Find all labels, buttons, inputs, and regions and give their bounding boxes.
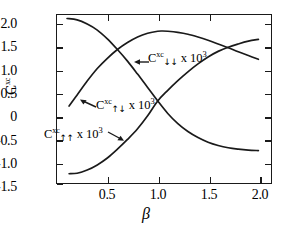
annot-sup: xc	[52, 126, 59, 135]
y-tick-label: -0.5	[0, 133, 17, 149]
annotation-label-up-down: Cxc↑↓ x 103	[96, 97, 155, 114]
annotation-label-down-down: Cxc↓↓ x 103	[148, 50, 207, 67]
x-tick-label: 1.0	[138, 187, 178, 203]
annot-sub: ↓↓	[164, 57, 178, 67]
annot-sup: xc	[104, 97, 111, 106]
y-tick-mark	[57, 183, 63, 185]
y-tick-label: 1.5	[0, 39, 17, 55]
annot-mul: x	[178, 51, 191, 65]
annot-factor: 10	[138, 98, 151, 112]
annot-power: 3	[203, 49, 207, 59]
annotation-arrow-up-up	[107, 130, 125, 143]
y-tick-label: 0	[0, 109, 17, 125]
annot-sub: ↑↑	[60, 133, 74, 143]
annotation-arrow-up-down	[80, 99, 97, 111]
annot-factor: 10	[190, 51, 203, 65]
annot-sup: xc	[156, 50, 163, 59]
figure-container: Cxc 2.0 1.5 1.0 0.5 0 -0.5 -1.0 -1.5 0.5…	[0, 0, 292, 233]
annot-power: 3	[151, 96, 155, 106]
annot-mul: x	[74, 127, 87, 141]
x-axis-title: β	[0, 205, 292, 223]
y-tick-label: 2.0	[0, 16, 17, 32]
y-axis-title-sup: xc	[3, 78, 12, 85]
annot-sub: ↑↓	[112, 104, 126, 114]
y-tick-label: 1.0	[0, 63, 17, 79]
annot-factor: 10	[86, 127, 99, 141]
y-tick-label: -1.0	[0, 156, 17, 172]
x-tick-label: 2.0	[240, 187, 280, 203]
y-tick-label: -1.5	[0, 179, 17, 195]
annotation-label-up-up: Cxc↑↑ x 103	[44, 126, 103, 143]
x-tick-label: 0.5	[87, 187, 127, 203]
annot-mul: x	[126, 98, 139, 112]
x-tick-label: 1.5	[189, 187, 229, 203]
annot-power: 3	[99, 125, 103, 135]
y-tick-label: 0.5	[0, 86, 17, 102]
